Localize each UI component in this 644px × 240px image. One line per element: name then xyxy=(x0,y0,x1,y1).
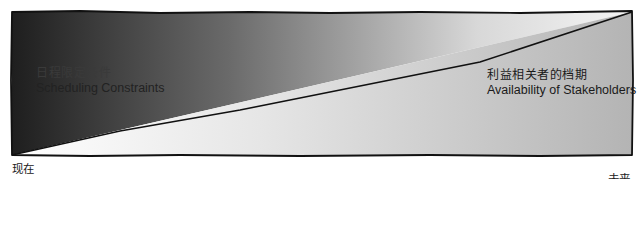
scheduling-constraints-label-zh: 日程限定条件 xyxy=(36,66,165,81)
axis-end-label: 未来 xyxy=(608,170,630,179)
stakeholder-availability-label-en: Availability of Stakeholders xyxy=(487,83,636,99)
stakeholder-availability-label-zh: 利益相关者的档期 xyxy=(487,68,636,83)
stakeholder-availability-label: 利益相关者的档期 Availability of Stakeholders xyxy=(487,68,636,99)
scheduling-constraints-label: 日程限定条件 Scheduling Constraints xyxy=(36,66,165,97)
scheduling-constraints-label-en: Scheduling Constraints xyxy=(36,81,165,97)
axis-start-label: 现在 xyxy=(12,160,34,176)
